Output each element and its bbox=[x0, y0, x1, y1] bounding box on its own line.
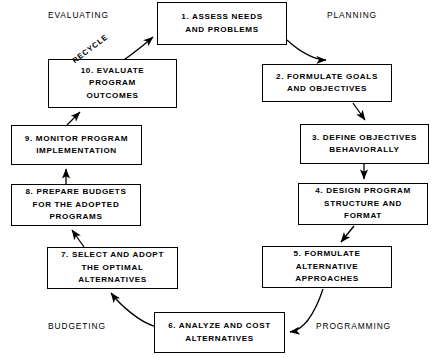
edge-4-to-5 bbox=[341, 226, 354, 242]
quadrant-label-evaluating: EVALUATING bbox=[48, 10, 109, 20]
node-7-line-3: ALTERNATIVES bbox=[78, 274, 147, 286]
node-4-line-1: 4. DESIGN PROGRAM bbox=[315, 185, 411, 197]
node-5-line-3: APPROACHES bbox=[295, 273, 359, 285]
node-7-line-2: THE OPTIMAL bbox=[81, 262, 143, 274]
node-5-line-2: ALTERNATIVE bbox=[296, 261, 359, 273]
process-node-9[interactable]: 9. MONITOR PROGRAM IMPLEMENTATION bbox=[11, 125, 142, 165]
node-10-line-3: OUTCOMES bbox=[87, 90, 139, 102]
process-node-2[interactable]: 2. FORMULATE GOALS AND OBJECTIVES bbox=[262, 64, 392, 102]
node-9-line-2: IMPLEMENTATION bbox=[36, 145, 117, 157]
node-5-line-1: 5. FORMULATE bbox=[293, 248, 360, 260]
process-node-8[interactable]: 8. PREPARE BUDGETS FOR THE ADOPTED PROGR… bbox=[11, 184, 141, 226]
edge-7-to-8 bbox=[72, 230, 84, 247]
node-6-line-2: ALTERNATIVES bbox=[185, 333, 254, 345]
node-10-line-1: 10. EVALUATE bbox=[81, 65, 145, 77]
process-node-7[interactable]: 7. SELECT AND ADOPT THE OPTIMAL ALTERNAT… bbox=[47, 247, 178, 289]
process-node-6[interactable]: 6. ANALYZE AND COST ALTERNATIVES bbox=[154, 312, 285, 353]
node-6-line-1: 6. ANALYZE AND COST bbox=[168, 320, 271, 332]
process-node-5[interactable]: 5. FORMULATE ALTERNATIVE APPROACHES bbox=[262, 246, 392, 288]
edge-1-to-2 bbox=[287, 40, 326, 60]
node-2-line-1: 2. FORMULATE GOALS bbox=[276, 71, 378, 83]
node-3-line-2: BEHAVIORALLY bbox=[329, 144, 399, 156]
node-1-line-1: 1. ASSESS NEEDS bbox=[181, 11, 262, 23]
node-4-line-3: FORMAT bbox=[344, 210, 382, 222]
edge-2-to-3 bbox=[353, 103, 365, 120]
node-4-line-2: STRUCTURE AND bbox=[324, 198, 402, 210]
quadrant-label-planning: PLANNING bbox=[327, 10, 377, 20]
edge-9-to-10 bbox=[67, 112, 80, 125]
node-3-line-1: 3. DEFINE OBJECTIVES bbox=[312, 132, 417, 144]
process-node-3[interactable]: 3. DEFINE OBJECTIVES BEHAVIORALLY bbox=[300, 124, 429, 164]
process-node-4[interactable]: 4. DESIGN PROGRAM STRUCTURE AND FORMAT bbox=[298, 183, 428, 225]
quadrant-label-programming: PROGRAMMING bbox=[316, 321, 391, 331]
node-8-line-2: FOR THE ADOPTED bbox=[33, 199, 120, 211]
node-2-line-2: AND OBJECTIVES bbox=[287, 83, 367, 95]
node-9-line-1: 9. MONITOR PROGRAM bbox=[25, 133, 128, 145]
process-node-1[interactable]: 1. ASSESS NEEDS AND PROBLEMS bbox=[157, 2, 287, 45]
quadrant-label-budgeting: BUDGETING bbox=[48, 321, 106, 331]
node-7-line-1: 7. SELECT AND ADOPT bbox=[61, 249, 164, 261]
process-cycle-diagram: EVALUATING PLANNING BUDGETING PROGRAMMIN… bbox=[0, 0, 434, 358]
node-8-line-3: PROGRAMS bbox=[50, 211, 103, 223]
node-1-line-2: AND PROBLEMS bbox=[185, 24, 258, 36]
process-node-10[interactable]: 10. EVALUATE PROGRAM OUTCOMES bbox=[48, 59, 177, 108]
connector-layer bbox=[0, 0, 434, 358]
edge-6-to-7 bbox=[111, 293, 154, 326]
node-10-line-2: PROGRAM bbox=[89, 77, 136, 89]
node-8-line-1: 8. PREPARE BUDGETS bbox=[25, 186, 126, 198]
